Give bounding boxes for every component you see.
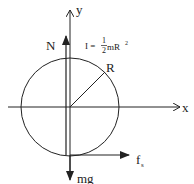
inertia-prefix: I = [85,41,95,51]
inertia-suffix: mR [107,42,120,52]
normal-force-label: N [46,38,56,53]
friction-force-label: f s [136,152,144,169]
x-axis-label: x [182,100,189,115]
gravity-force-label: mg [77,171,94,184]
inertia-denominator: 2 [102,46,106,55]
free-body-diagram: y x N R mg f s I = 1 2 mR 2 [0,0,194,184]
inertia-numerator: 1 [102,36,106,45]
friction-label-subscript: s [141,161,144,169]
radius-label: R [106,60,115,75]
inertia-exponent: 2 [125,40,128,46]
y-axis-label: y [76,2,83,17]
moment-of-inertia-formula: I = 1 2 mR 2 [85,36,128,55]
radius-line [70,72,105,107]
